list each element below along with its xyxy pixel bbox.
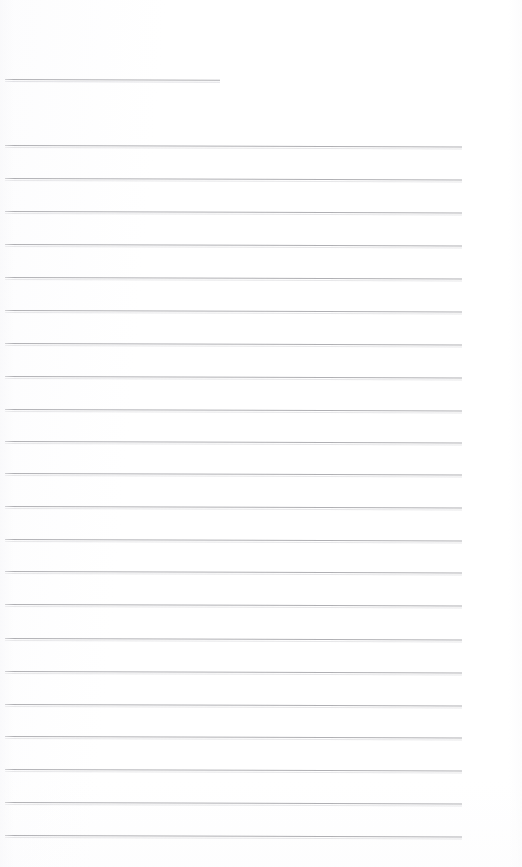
body-rule-line bbox=[5, 473, 462, 475]
body-rule-line bbox=[5, 638, 462, 640]
body-rule-line bbox=[5, 409, 462, 411]
body-rule-line bbox=[5, 178, 462, 180]
body-rule-line bbox=[5, 671, 462, 673]
body-rule-line bbox=[5, 343, 462, 345]
body-rule-zone bbox=[0, 0, 522, 867]
body-rule-line bbox=[5, 571, 462, 573]
body-rule-line bbox=[5, 802, 462, 804]
body-rule-line bbox=[5, 604, 462, 606]
body-rule-line bbox=[5, 244, 462, 246]
body-rule-line bbox=[5, 506, 462, 508]
body-rule-line bbox=[5, 145, 462, 147]
body-rule-line bbox=[5, 441, 462, 443]
body-rule-line bbox=[5, 704, 462, 706]
body-rule-line bbox=[5, 769, 462, 771]
body-rule-line bbox=[5, 539, 462, 541]
body-rule-line bbox=[5, 211, 462, 213]
body-rule-line bbox=[5, 277, 462, 279]
body-rule-line bbox=[5, 736, 462, 738]
body-rule-line bbox=[5, 310, 462, 312]
scanned-page bbox=[0, 0, 522, 867]
body-rule-line bbox=[5, 835, 462, 837]
body-rule-line bbox=[5, 376, 462, 378]
